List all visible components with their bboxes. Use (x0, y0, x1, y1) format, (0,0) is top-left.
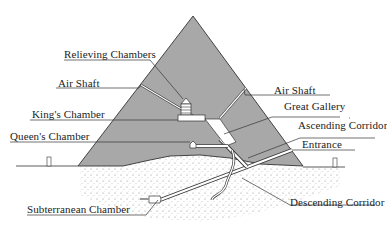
label-ascending-corridor: Ascending Corridor (298, 119, 387, 131)
label-air-shaft-right: Air Shaft (274, 84, 316, 96)
label-great-gallery: Great Gallery (284, 100, 345, 112)
label-entrance: Entrance (302, 138, 342, 150)
label-descending-corridor: Descending Corridor (290, 196, 384, 208)
label-queens-chamber: Queen's Chamber (10, 130, 90, 142)
label-subterranean-chamber: Subterranean Chamber (27, 203, 130, 215)
label-air-shaft-left: Air Shaft (58, 77, 100, 89)
label-kings-chamber: King's Chamber (32, 108, 105, 120)
label-relieving-chambers: Relieving Chambers (64, 48, 156, 60)
